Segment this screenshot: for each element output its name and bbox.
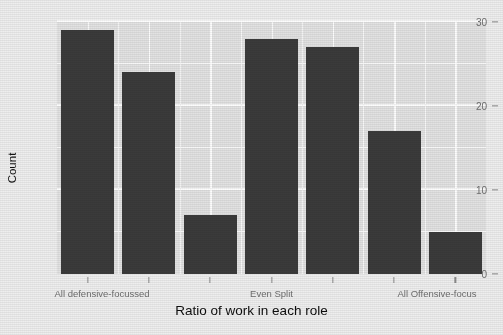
plot-panel: [57, 22, 486, 274]
gridline-x-minor-2: [180, 22, 181, 274]
gridline-x-minor-3: [241, 22, 242, 274]
gridline-x-minor-4: [302, 22, 303, 274]
y-tick-mark-30: [492, 21, 498, 22]
y-tick-mark-20: [492, 105, 498, 106]
gridline-x-minor-5: [363, 22, 364, 274]
x-tick-label-left: All defensive-focussed: [54, 288, 149, 299]
y-tick-mark-10: [492, 189, 498, 190]
bar-2: [122, 72, 175, 274]
x-tick-mark-6: [393, 277, 394, 283]
x-tick-mark-5: [332, 277, 333, 283]
gridline-x-minor-6: [425, 22, 426, 274]
x-tick-mark-3: [210, 277, 211, 283]
bar-1: [61, 30, 114, 274]
y-axis-title: Count: [0, 0, 30, 335]
y-tick-mark-0: [492, 273, 498, 274]
y-tick-label-30: 30: [476, 17, 487, 28]
x-tick-mark-7: [455, 277, 456, 283]
y-tick-label-10: 10: [476, 185, 487, 196]
x-tick-mark-4: [271, 277, 272, 283]
bar-chart-figure: 30 20 10 0 All defensive-focussed Even S…: [0, 0, 503, 335]
y-axis-title-text: Count: [6, 152, 18, 183]
bar-3: [184, 215, 237, 274]
y-tick-label-20: 20: [476, 101, 487, 112]
x-tick-mark-1: [87, 277, 88, 283]
bar-6: [368, 131, 421, 274]
y-tick-label-0: 0: [481, 269, 487, 280]
bar-4: [245, 39, 298, 274]
bar-7: [429, 232, 482, 274]
x-tick-label-center: Even Split: [250, 288, 293, 299]
gridline-x-minor-1: [118, 22, 119, 274]
x-tick-label-right: All Offensive-focus: [397, 288, 476, 299]
bar-5: [306, 47, 359, 274]
x-axis-title: Ratio of work in each role: [0, 303, 503, 318]
x-tick-mark-2: [148, 277, 149, 283]
